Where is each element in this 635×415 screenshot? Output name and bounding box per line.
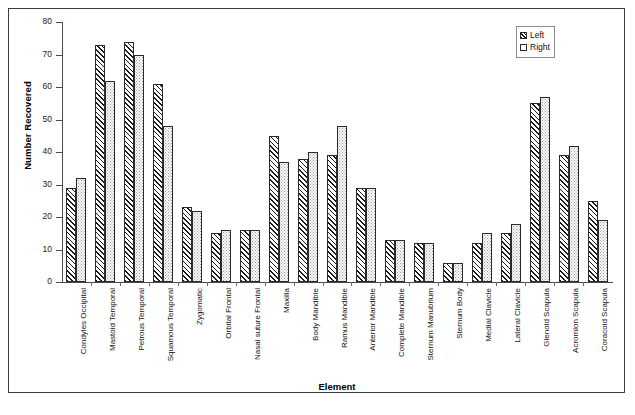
bar-right <box>424 243 434 282</box>
bar-right <box>163 126 173 282</box>
x-axis-tick-label: Petrous Temporal <box>138 288 146 351</box>
x-axis-tick-label: Lateral Clavicle <box>514 288 522 343</box>
bar-left <box>443 263 453 283</box>
y-axis-tick-label-wrap: 70 <box>22 55 52 56</box>
bar-right <box>105 81 115 283</box>
x-axis-tick <box>554 282 555 286</box>
bar-group <box>149 22 178 282</box>
bar-group <box>409 22 438 282</box>
x-axis-tick <box>178 282 179 286</box>
bar-right <box>540 97 550 282</box>
x-axis-tick-label: Body Mandible <box>312 288 320 341</box>
bar-left <box>327 155 337 282</box>
bar-left <box>124 42 134 283</box>
bar-right <box>192 211 202 283</box>
bar-right <box>395 240 405 282</box>
x-axis-tick <box>351 282 352 286</box>
bar-left <box>385 240 395 282</box>
x-axis-tick-label: Orbital Frontal <box>225 288 233 339</box>
x-axis-tick <box>467 282 468 286</box>
plot-area <box>62 22 612 282</box>
y-axis-tick-label: 50 <box>26 115 52 124</box>
x-axis-tick-label: Maxilla <box>283 288 291 313</box>
x-axis-tick-label: Anterior Mandible <box>369 288 377 351</box>
bar-right <box>453 263 463 283</box>
bar-left <box>211 233 221 282</box>
bar-right <box>482 233 492 282</box>
x-axis-tick-label: Glenoid Scapula <box>543 288 551 347</box>
bar-right <box>134 55 144 283</box>
x-axis-tick <box>91 282 92 286</box>
legend-swatch-left-icon <box>520 32 527 39</box>
bar-left <box>356 188 366 282</box>
bar-left <box>240 230 250 282</box>
legend-swatch-right-icon <box>520 44 527 51</box>
y-axis-tick-label: 60 <box>26 82 52 91</box>
legend-label-right: Right <box>530 43 550 52</box>
chart-legend: Left Right <box>516 26 555 58</box>
x-axis-tick-label: Acromion Scapula <box>572 288 580 353</box>
x-axis-tick-label: Complete Mandible <box>398 288 406 357</box>
bar-left <box>530 103 540 282</box>
bar-left <box>472 243 482 282</box>
chart-figure: Number Recovered Element 010203040506070… <box>0 0 635 415</box>
x-axis-tick <box>583 282 584 286</box>
bar-group <box>525 22 554 282</box>
bar-left <box>414 243 424 282</box>
x-axis-tick-label: Sternum Body <box>456 288 464 339</box>
bar-right <box>511 224 521 283</box>
x-axis-tick-label: Mastoid Temporal <box>109 288 117 351</box>
bar-group <box>583 22 612 282</box>
bar-left <box>588 201 598 282</box>
x-axis-tick <box>496 282 497 286</box>
x-axis-tick-label: Coracoid Scapula <box>601 288 609 351</box>
x-axis-tick-label: Condyles Occipital <box>80 288 88 354</box>
x-axis-tick <box>323 282 324 286</box>
bar-group <box>380 22 409 282</box>
x-axis-tick-label: Ramus Mandible <box>341 288 349 348</box>
bar-right <box>337 126 347 282</box>
bar-group <box>207 22 236 282</box>
bar-left <box>559 155 569 282</box>
bar-right <box>76 178 86 282</box>
x-axis-tick <box>236 282 237 286</box>
bar-left <box>182 207 192 282</box>
x-axis-tick <box>120 282 121 286</box>
bar-left <box>269 136 279 282</box>
x-axis-tick <box>207 282 208 286</box>
y-axis-tick-label-wrap: 20 <box>22 217 52 218</box>
x-axis-tick <box>294 282 295 286</box>
bar-group <box>554 22 583 282</box>
bar-left <box>501 233 511 282</box>
legend-label-left: Left <box>530 31 544 40</box>
y-axis-tick-label-wrap: 30 <box>22 185 52 186</box>
bar-left <box>66 188 76 282</box>
x-axis-tick-label: Squamous Temporal <box>167 288 175 361</box>
bar-group <box>91 22 120 282</box>
x-axis-tick <box>409 282 410 286</box>
bar-group <box>178 22 207 282</box>
y-axis-tick-label: 20 <box>26 212 52 221</box>
y-axis-tick <box>56 282 62 283</box>
y-axis-tick-label: 30 <box>26 180 52 189</box>
bar-right <box>279 162 289 282</box>
legend-item-left: Left <box>520 30 550 41</box>
y-axis-tick-label-wrap: 50 <box>22 120 52 121</box>
x-axis-tick-label: Sternum Manubrium <box>427 288 435 360</box>
bar-right <box>366 188 376 282</box>
bar-right <box>598 220 608 282</box>
y-axis-tick-label-wrap: 10 <box>22 250 52 251</box>
bar-group <box>496 22 525 282</box>
bar-group <box>236 22 265 282</box>
y-axis-tick-label-wrap: 40 <box>22 152 52 153</box>
x-axis-line <box>62 282 613 283</box>
bar-right <box>308 152 318 282</box>
bar-left <box>95 45 105 282</box>
bar-group <box>120 22 149 282</box>
bar-group <box>438 22 467 282</box>
x-axis-tick <box>438 282 439 286</box>
bar-group <box>62 22 91 282</box>
x-axis-tick-label: Zygomatic <box>196 288 204 325</box>
y-axis-tick-label: 0 <box>26 277 52 286</box>
bar-right <box>250 230 260 282</box>
